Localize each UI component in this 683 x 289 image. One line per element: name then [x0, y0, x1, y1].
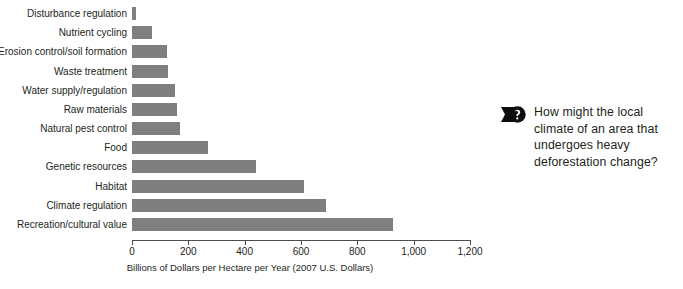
x-axis-tick-label: 1,000 [384, 246, 444, 257]
chart-row: Food [0, 138, 500, 157]
bar [132, 45, 167, 58]
chart-row: Genetic resources [0, 157, 500, 176]
bar [132, 141, 208, 154]
category-label: Nutrient cycling [0, 23, 132, 42]
category-label: Disturbance regulation [0, 4, 132, 23]
x-axis-tick [188, 240, 189, 245]
x-axis-tick-label: 800 [327, 246, 387, 257]
bar [132, 103, 177, 116]
x-axis-tick-label: 0 [102, 246, 162, 257]
chart-row: Raw materials [0, 100, 500, 119]
category-label: Water supply/regulation [0, 81, 132, 100]
category-label: Genetic resources [0, 157, 132, 176]
category-label: Erosion control/soil formation [0, 42, 132, 61]
x-axis-tick [357, 240, 358, 245]
chart-row: Recreation/cultural value [0, 215, 500, 234]
question-banner-icon [501, 105, 529, 124]
category-label: Natural pest control [0, 119, 132, 138]
category-label: Waste treatment [0, 62, 132, 81]
category-label: Habitat [0, 177, 132, 196]
chart-row: Climate regulation [0, 196, 500, 215]
chart-row: Natural pest control [0, 119, 500, 138]
x-axis-tick [301, 240, 302, 245]
question-text: How might the local climate of an area t… [534, 104, 681, 170]
category-label: Food [0, 138, 132, 157]
x-axis-tick-label: 200 [158, 246, 218, 257]
x-axis-tick [245, 240, 246, 245]
bar [132, 180, 304, 193]
x-axis-tick-label: 400 [215, 246, 275, 257]
plot-area: Disturbance regulationNutrient cyclingEr… [0, 0, 500, 246]
x-axis-tick-label: 1,200 [440, 246, 500, 257]
bar [132, 218, 393, 231]
chart-row: Water supply/regulation [0, 81, 500, 100]
chart-row: Waste treatment [0, 62, 500, 81]
bar-chart-figure: Disturbance regulationNutrient cyclingEr… [0, 0, 500, 289]
bar [132, 160, 256, 173]
x-axis-tick-label: 600 [271, 246, 331, 257]
chart-row: Disturbance regulation [0, 4, 500, 23]
category-label: Climate regulation [0, 196, 132, 215]
bar [132, 65, 168, 78]
bar [132, 199, 326, 212]
bar [132, 26, 152, 39]
chart-row: Erosion control/soil formation [0, 42, 500, 61]
x-axis-tick [132, 240, 133, 245]
bar [132, 84, 175, 97]
chart-row: Habitat [0, 177, 500, 196]
question-callout: How might the local climate of an area t… [501, 104, 681, 170]
category-label: Raw materials [0, 100, 132, 119]
x-axis-tick [470, 240, 471, 245]
category-label: Recreation/cultural value [0, 215, 132, 234]
x-axis-tick [414, 240, 415, 245]
bar [132, 122, 180, 135]
x-axis-title: Billions of Dollars per Hectare per Year… [0, 262, 500, 273]
bar [132, 7, 136, 20]
chart-row: Nutrient cycling [0, 23, 500, 42]
